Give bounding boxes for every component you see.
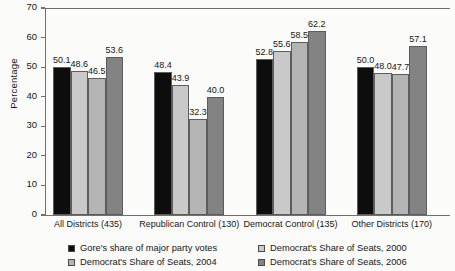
bar: 55.6 [273, 51, 291, 215]
bar: 50.0 [357, 67, 375, 215]
legend-swatch [68, 259, 75, 266]
bar-group: 50.148.646.553.6 [53, 8, 123, 215]
bar-group: 48.443.932.340.0 [154, 8, 224, 215]
y-axis-title: Percentage [8, 34, 19, 134]
y-axis-tick-label: 40 [26, 90, 37, 101]
bar-value-label: 53.6 [105, 45, 123, 55]
bar-value-label: 32.3 [189, 107, 207, 117]
y-axis-tick-label: 50 [26, 60, 37, 71]
bar-group: 50.048.047.757.1 [357, 8, 427, 215]
bar-value-label: 58.5 [290, 30, 308, 40]
bar: 48.0 [374, 73, 392, 215]
bar-value-label: 55.6 [273, 39, 291, 49]
y-axis-tick-label: 0 [32, 208, 37, 219]
bar-value-label: 40.0 [207, 85, 225, 95]
legend-swatch [258, 245, 265, 252]
legend-label: Democrat's Share of Seats, 2006 [270, 257, 407, 267]
bar: 47.7 [392, 74, 410, 215]
legend-label: Democrat's Share of Seats, 2000 [270, 243, 407, 253]
bar: 53.6 [106, 57, 124, 216]
bar-chart: Percentage 010203040506070 50.148.646.55… [0, 0, 455, 271]
bar: 32.3 [189, 119, 207, 215]
bar-value-label: 48.6 [70, 59, 88, 69]
y-axis-tick-label: 60 [26, 31, 37, 42]
y-axis-tick-label: 70 [26, 1, 37, 12]
bar-value-label: 46.5 [88, 66, 106, 76]
bar-value-label: 62.2 [308, 19, 326, 29]
bar-value-label: 43.9 [172, 73, 190, 83]
y-axis-tick-label: 20 [26, 149, 37, 160]
bar-group: 52.855.658.562.2 [256, 8, 326, 215]
legend-label: Gore's share of major party votes [80, 243, 217, 253]
legend-item: Gore's share of major party votes [68, 243, 258, 253]
bar-value-label: 50.1 [53, 55, 71, 65]
legend-swatch [258, 259, 265, 266]
y-axis-tick-label: 30 [26, 119, 37, 130]
legend-item: Democrat's Share of Seats, 2006 [258, 257, 428, 267]
bar-value-label: 47.7 [392, 62, 410, 72]
x-axis-baseline [45, 215, 450, 216]
bar: 48.4 [154, 72, 172, 215]
bar-value-label: 57.1 [409, 34, 427, 44]
bar: 50.1 [53, 67, 71, 215]
bars-layer: 50.148.646.553.648.443.932.340.052.855.6… [45, 8, 450, 215]
bar-value-label: 50.0 [357, 55, 375, 65]
legend-item: Democrat's Share of Seats, 2004 [68, 257, 258, 267]
y-axis-tick-label: 10 [26, 178, 37, 189]
bar-value-label: 52.8 [255, 47, 273, 57]
bar: 46.5 [88, 78, 106, 216]
x-axis-category-label: Other Districts (170) [332, 219, 452, 229]
bar-value-label: 48.4 [154, 60, 172, 70]
bar: 40.0 [207, 97, 225, 215]
bar: 48.6 [71, 71, 89, 215]
legend-item: Democrat's Share of Seats, 2000 [258, 243, 428, 253]
chart-legend: Gore's share of major party votesDemocra… [68, 241, 428, 269]
bar-value-label: 48.0 [374, 61, 392, 71]
bar: 57.1 [409, 46, 427, 215]
legend-swatch [68, 245, 75, 252]
legend-label: Democrat's Share of Seats, 2004 [80, 257, 217, 267]
bar: 58.5 [291, 42, 309, 215]
bar: 43.9 [172, 85, 190, 215]
bar: 62.2 [308, 31, 326, 215]
bar: 52.8 [256, 59, 274, 215]
